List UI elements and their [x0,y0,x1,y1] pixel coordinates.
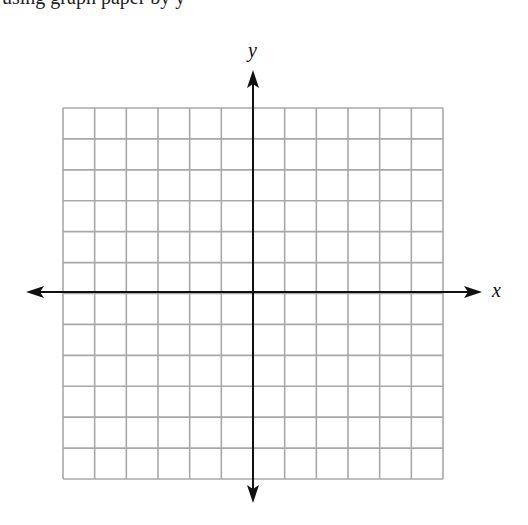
y-axis-label: y [248,40,257,60]
coordinate-grid [0,0,528,525]
y-axis [247,70,259,503]
x-axis-label: x [492,280,501,300]
